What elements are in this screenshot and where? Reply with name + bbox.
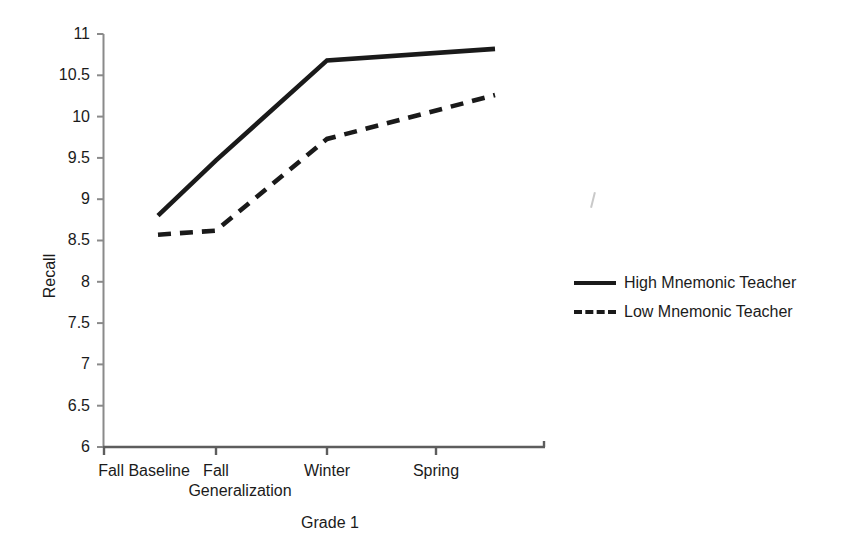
legend-label-low-mnemonic-teacher: Low Mnemonic Teacher bbox=[618, 303, 793, 321]
legend-item-high-mnemonic-teacher: High Mnemonic Teacher bbox=[572, 268, 834, 297]
y-axis bbox=[97, 34, 104, 447]
x-tick-label-winter: Winter bbox=[277, 462, 377, 480]
y-tick-label-9: 9 bbox=[46, 191, 90, 207]
y-tick-label-7: 7 bbox=[46, 356, 90, 372]
legend-item-low-mnemonic-teacher: Low Mnemonic Teacher bbox=[572, 297, 834, 326]
x-axis-title: Grade 1 bbox=[250, 514, 410, 532]
y-tick-label-10-5: 10.5 bbox=[46, 67, 90, 83]
y-tick-label-6: 6 bbox=[46, 439, 90, 455]
chart-legend: High Mnemonic Teacher Low Mnemonic Teach… bbox=[572, 268, 834, 326]
x-axis bbox=[103, 441, 545, 455]
y-axis-title: Recall bbox=[42, 236, 58, 316]
x-tick-label-generalization: Generalization bbox=[150, 482, 330, 500]
y-tick-label-10: 10 bbox=[46, 109, 90, 125]
y-tick-label-11: 11 bbox=[46, 26, 90, 42]
series-line-high-mnemonic-teacher bbox=[158, 49, 495, 216]
x-tick-label-fall: Fall bbox=[166, 462, 266, 480]
legend-swatch-dashed-line-icon bbox=[572, 305, 618, 319]
y-tick-label-6-5: 6.5 bbox=[46, 398, 90, 414]
chart-figure: 11 10.5 10 9.5 9 8.5 8 7.5 7 6.5 6 Recal… bbox=[0, 0, 847, 559]
y-tick-label-9-5: 9.5 bbox=[46, 150, 90, 166]
x-tick-label-spring: Spring bbox=[386, 462, 486, 480]
legend-swatch-solid-line-icon bbox=[572, 276, 618, 290]
y-tick-label-7-5: 7.5 bbox=[46, 315, 90, 331]
legend-label-high-mnemonic-teacher: High Mnemonic Teacher bbox=[618, 274, 796, 292]
